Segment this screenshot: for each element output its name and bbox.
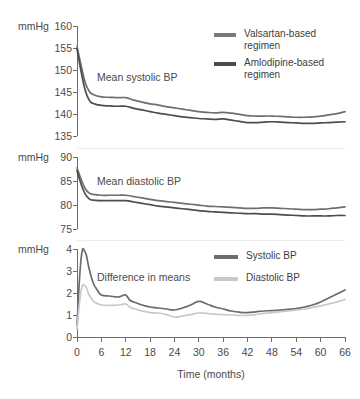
legend-swatch-valsartan [214, 33, 236, 37]
x-tick-label-66: 66 [339, 346, 351, 358]
systolic-y-tick-160: 160 [54, 20, 72, 32]
difference-annotation: Difference in means [97, 271, 190, 283]
diastolic-unit-label: mmHg [18, 151, 49, 163]
x-axis-title: Time (months) [177, 368, 244, 380]
chart-canvas: mmHg 160 155 150 145 140 135 Mean systol… [0, 0, 360, 399]
x-tick-label-0: 0 [74, 346, 80, 358]
difference-y-tick-0: 0 [66, 331, 72, 343]
x-tick-label-30: 30 [193, 346, 205, 358]
x-tick-label-42: 42 [242, 346, 254, 358]
x-tick-label-6: 6 [98, 346, 104, 358]
legend-label-valsartan-line2: regimen [244, 40, 280, 51]
legend-label-amlodipine-line2: regimen [244, 69, 280, 80]
systolic-y-tick-140: 140 [54, 108, 72, 120]
diastolic-annotation: Mean diastolic BP [97, 175, 181, 187]
x-tick-label-60: 60 [315, 346, 327, 358]
legend-swatch-diastolic [214, 277, 238, 281]
legend-swatch-systolic [214, 255, 238, 259]
x-tick-label-36: 36 [217, 346, 229, 358]
diastolic-y-tick-75: 75 [60, 223, 72, 235]
diastolic-y-tick-80: 80 [60, 199, 72, 211]
x-tick-label-12: 12 [120, 346, 132, 358]
legend-label-diastolic: Diastolic BP [246, 272, 300, 283]
diastolic-y-tick-90: 90 [60, 151, 72, 163]
systolic-y-tick-145: 145 [54, 86, 72, 98]
x-tick-label-48: 48 [266, 346, 278, 358]
diastolic-y-tick-85: 85 [60, 175, 72, 187]
difference-unit-label: mmHg [18, 243, 49, 255]
systolic-y-tick-155: 155 [54, 42, 72, 54]
difference-y-tick-4: 4 [66, 243, 72, 255]
difference-y-tick-2: 2 [66, 287, 72, 299]
x-tick-label-54: 54 [290, 346, 302, 358]
systolic-unit-label: mmHg [18, 20, 49, 32]
blood-pressure-figure: mmHg 160 155 150 145 140 135 Mean systol… [0, 0, 360, 399]
systolic-annotation: Mean systolic BP [97, 71, 178, 83]
difference-y-tick-3: 3 [66, 265, 72, 277]
systolic-y-tick-150: 150 [54, 64, 72, 76]
legend-label-systolic: Systolic BP [246, 250, 297, 261]
x-tick-label-18: 18 [144, 346, 156, 358]
legend-label-amlodipine-line1: Amlodipine-based [244, 57, 324, 68]
x-tick-label-24: 24 [169, 346, 181, 358]
legend-swatch-amlodipine [214, 62, 236, 66]
legend-label-valsartan-line1: Valsartan-based [244, 28, 316, 39]
difference-y-tick-1: 1 [66, 309, 72, 321]
systolic-y-tick-135: 135 [54, 130, 72, 142]
